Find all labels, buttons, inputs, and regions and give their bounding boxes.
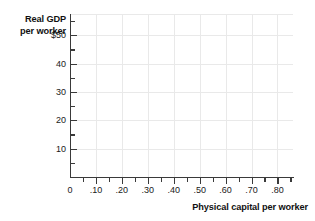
gridline-vertical	[96, 14, 97, 177]
y-axis-tick	[70, 92, 77, 93]
x-axis-tick	[252, 177, 253, 184]
y-axis-tick-label: 20	[56, 115, 66, 125]
x-axis-minor-tick	[187, 177, 188, 182]
chart-figure: $50403020100.10.20.30.40.50.60.70.80 Rea…	[0, 0, 315, 221]
y-axis-minor-tick	[70, 78, 75, 79]
gridline-vertical	[277, 14, 278, 177]
y-axis-tick	[70, 35, 77, 36]
y-axis-tick-label: 10	[56, 144, 66, 154]
plot-area	[70, 14, 293, 177]
gridline-vertical	[252, 14, 253, 177]
y-axis-minor-tick	[70, 49, 75, 50]
x-axis-minor-tick	[264, 177, 265, 182]
gridline-vertical	[174, 14, 175, 177]
gridline-horizontal	[70, 64, 293, 65]
y-axis-title-line2: per worker	[0, 26, 66, 38]
y-axis-minor-tick	[70, 106, 75, 107]
x-axis-minor-tick	[109, 177, 110, 182]
x-axis-tick	[200, 177, 201, 184]
gridline-vertical	[122, 14, 123, 177]
y-axis-minor-tick	[70, 21, 75, 22]
x-axis-tick	[96, 177, 97, 184]
gridline-vertical	[148, 14, 149, 177]
y-axis-tick	[70, 120, 77, 121]
y-axis-tick	[70, 64, 77, 65]
x-axis-line	[70, 177, 294, 178]
y-axis-title: Real GDP per worker	[0, 14, 66, 37]
gridline-horizontal	[70, 14, 293, 15]
y-axis-minor-tick	[70, 163, 75, 164]
x-axis-tick	[226, 177, 227, 184]
x-axis-minor-tick	[239, 177, 240, 182]
gridline-horizontal	[70, 92, 293, 93]
y-axis-line	[70, 14, 71, 178]
gridline-horizontal	[70, 120, 293, 121]
x-axis-minor-tick	[290, 177, 291, 182]
x-axis-tick	[174, 177, 175, 184]
x-axis-tick	[148, 177, 149, 184]
gridline-vertical	[200, 14, 201, 177]
x-axis-minor-tick	[213, 177, 214, 182]
gridline-horizontal	[70, 149, 293, 150]
y-axis-tick-label: 30	[56, 87, 66, 97]
x-axis-tick-label: .80	[260, 185, 294, 195]
y-axis-minor-tick	[70, 134, 75, 135]
y-axis-title-line1: Real GDP	[0, 14, 66, 26]
x-axis-minor-tick	[161, 177, 162, 182]
y-axis-tick-label: 40	[56, 59, 66, 69]
x-axis-tick	[122, 177, 123, 184]
x-axis-title: Physical capital per worker	[120, 202, 308, 212]
x-axis-tick	[277, 177, 278, 184]
x-axis-minor-tick	[83, 177, 84, 182]
gridline-horizontal	[70, 35, 293, 36]
gridline-vertical	[226, 14, 227, 177]
y-axis-tick	[70, 149, 77, 150]
x-axis-minor-tick	[135, 177, 136, 182]
